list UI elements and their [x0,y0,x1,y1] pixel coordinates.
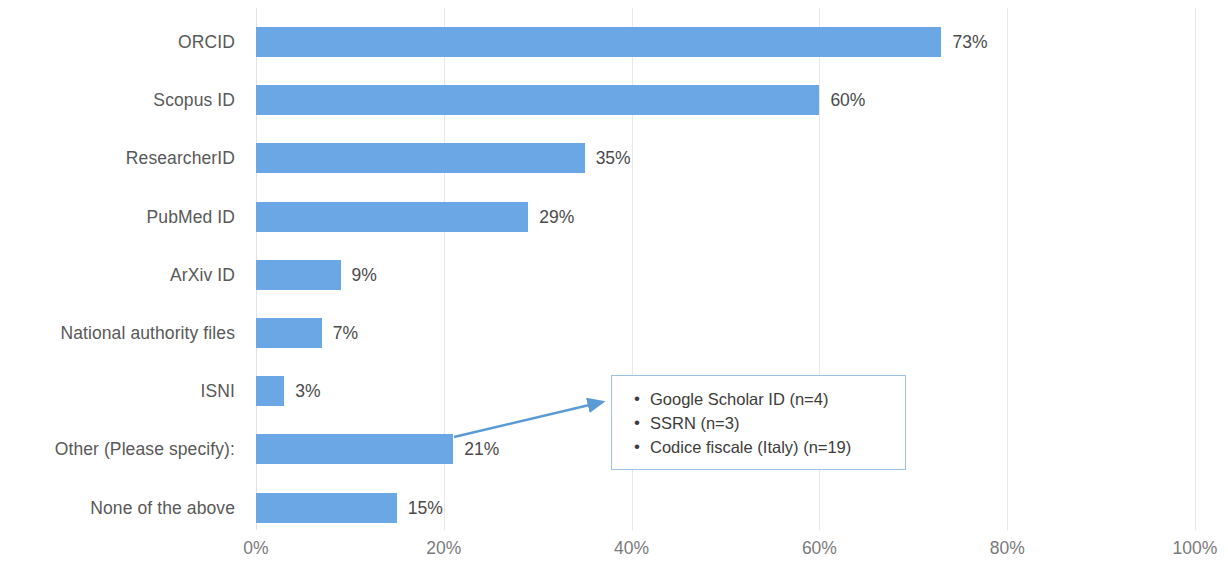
bar-row: Scopus ID60% [0,85,1228,115]
bar [256,27,941,57]
x-axis-tick-label: 0% [216,538,296,559]
value-label: 7% [333,318,358,348]
value-label: 3% [295,376,320,406]
category-label: PubMed ID [147,202,235,232]
category-label: ResearcherID [126,143,235,173]
bar-row: National authority files7% [0,318,1228,348]
category-label: ISNI [201,376,235,406]
bar-row: ResearcherID35% [0,143,1228,173]
value-label: 9% [352,260,377,290]
callout-bullet-list: Google Scholar ID (n=4)SSRN (n=3)Codice … [612,376,905,459]
x-axis-tick-label: 80% [967,538,1047,559]
callout-bullet-item: Google Scholar ID (n=4) [634,387,905,411]
value-label: 29% [539,202,574,232]
x-axis-tick-label: 60% [779,538,859,559]
bar-row: None of the above15% [0,493,1228,523]
callout-box: Google Scholar ID (n=4)SSRN (n=3)Codice … [611,375,906,470]
value-label: 73% [952,27,987,57]
x-axis-tick-label: 20% [404,538,484,559]
x-axis-tick-label: 100% [1155,538,1228,559]
category-label: ArXiv ID [170,260,235,290]
category-label: ORCID [178,27,235,57]
category-label: Scopus ID [153,85,235,115]
bar [256,434,453,464]
value-label: 35% [596,143,631,173]
bar-row: ORCID73% [0,27,1228,57]
bar [256,202,528,232]
bar [256,318,322,348]
bar-chart: ORCID73%Scopus ID60%ResearcherID35%PubMe… [0,0,1228,572]
bar [256,260,341,290]
category-label: Other (Please specify): [55,434,235,464]
bar [256,85,819,115]
value-label: 15% [408,493,443,523]
callout-bullet-item: SSRN (n=3) [634,411,905,435]
value-label: 60% [830,85,865,115]
value-label: 21% [464,434,499,464]
bar [256,493,397,523]
bar [256,143,585,173]
bar-row: ArXiv ID9% [0,260,1228,290]
category-label: None of the above [90,493,235,523]
bar [256,376,284,406]
bar-row: PubMed ID29% [0,202,1228,232]
x-axis-tick-label: 40% [592,538,672,559]
callout-bullet-item: Codice fiscale (Italy) (n=19) [634,435,905,459]
category-label: National authority files [60,318,235,348]
